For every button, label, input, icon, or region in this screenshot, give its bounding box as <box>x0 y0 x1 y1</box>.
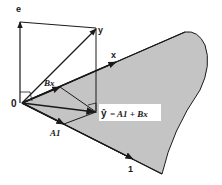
label-yhat: ŷ <box>101 108 107 119</box>
label-origin: 0 <box>11 98 17 109</box>
e-to-y-line <box>20 22 96 28</box>
label-one: 1 <box>128 164 133 174</box>
label-e: e <box>16 4 21 14</box>
label-x: x <box>111 50 116 60</box>
projection-diagram: 0 e y x Bx A1 1 ŷ = A1 + Bx <box>0 0 222 185</box>
label-a1: A1 <box>49 128 61 138</box>
label-yhat-equation: = A1 + Bx <box>110 109 148 119</box>
label-bx: Bx <box>43 78 55 88</box>
label-y: y <box>98 25 103 35</box>
